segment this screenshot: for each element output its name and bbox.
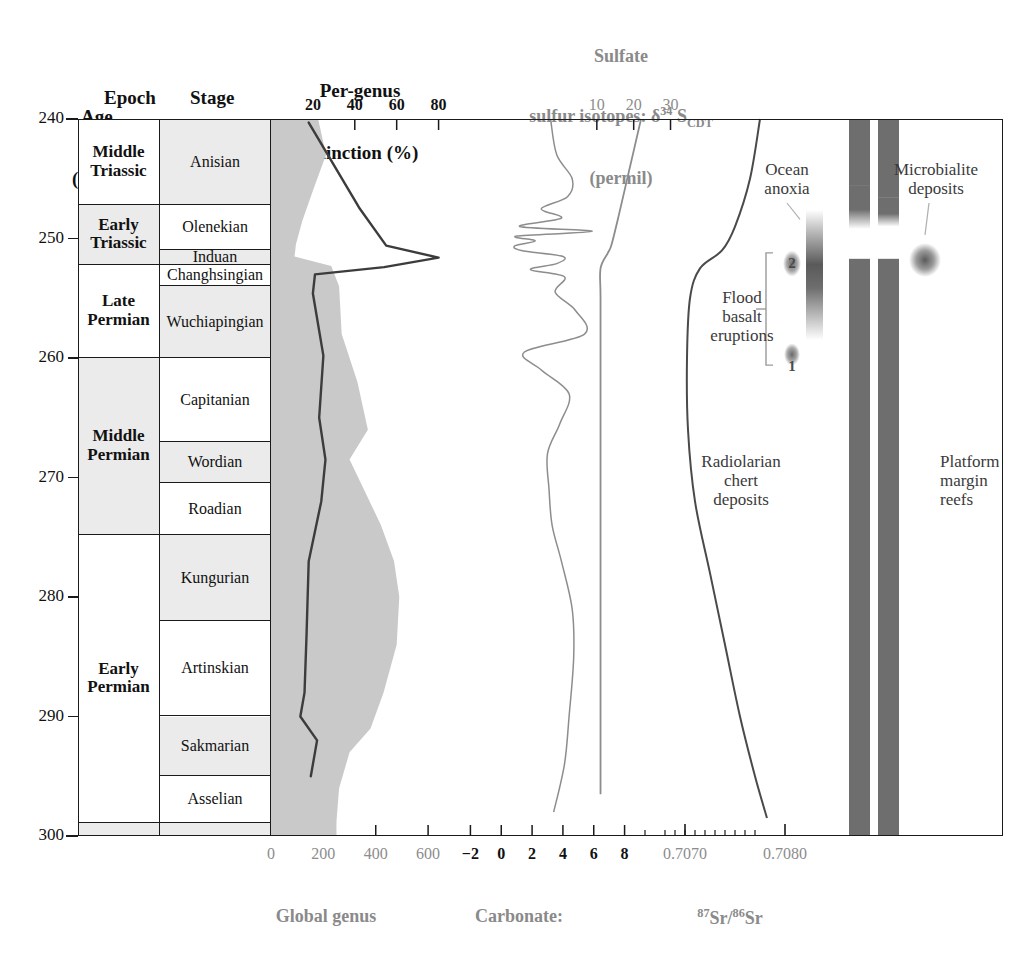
age-tick-label: 280: [20, 586, 64, 606]
age-tick: [68, 596, 78, 598]
age-tick-label: 240: [20, 108, 64, 128]
carbonate-tick-label: −2: [462, 845, 479, 863]
extinction-tick-label: 40: [347, 96, 363, 114]
carbonate-tick-label: 8: [621, 845, 629, 863]
extinction-tick-label: 60: [389, 96, 405, 114]
stage-column-title: Stage: [190, 88, 234, 109]
carbonate-tick-label: 6: [590, 845, 598, 863]
carbonate-panel-title: Carbonate: δ13 CVPDB (permil): [475, 868, 563, 965]
carbonate-tick-label: 4: [559, 845, 567, 863]
strontium-tick-label: 0.7070: [663, 845, 707, 863]
ocean-anoxia-label: Ocean anoxia: [764, 160, 809, 198]
flood-basalt-marker-2: 2: [783, 255, 801, 272]
diversity-tick-label: 200: [311, 845, 335, 863]
extinction-tick-label: 20: [305, 96, 321, 114]
carbonate-tick-label: 0: [497, 845, 505, 863]
age-tick-label: 250: [20, 228, 64, 248]
flood-basalt-label: Flood basalt eruptions: [710, 288, 773, 345]
extinction-tick-label: 80: [431, 96, 447, 114]
age-tick-label: 270: [20, 467, 64, 487]
age-tick: [66, 118, 78, 120]
diversity-tick-label: 400: [364, 845, 388, 863]
age-tick: [68, 357, 78, 359]
diversity-panel-title: Global genus diversity: [276, 868, 377, 965]
chart-canvas: Age (Mya) Epoch Stage Per-genus extincti…: [0, 0, 1031, 965]
chart-frame: [78, 119, 1003, 836]
epoch-column-title: Epoch: [104, 88, 156, 109]
age-tick-label: 260: [20, 347, 64, 367]
strontium-panel-title: 87Sr/86Sr: [697, 868, 762, 965]
diversity-tick-label: 0: [267, 845, 275, 863]
radiolarian-chert-label: Radiolarian chert deposits: [701, 452, 780, 509]
carbonate-tick-label: 2: [528, 845, 536, 863]
age-tick-label: 290: [20, 706, 64, 726]
age-tick: [68, 238, 78, 240]
platform-margin-reefs-label: Platform margin reefs: [940, 452, 1000, 509]
strontium-tick-label: 0.7080: [763, 845, 807, 863]
sulfate-tick-label: 30: [663, 96, 679, 114]
age-tick: [68, 716, 78, 718]
age-tick-label: 300: [20, 825, 64, 845]
age-tick: [66, 835, 78, 837]
flood-basalt-marker-1: 1: [783, 358, 801, 375]
sulfate-tick-label: 20: [626, 96, 642, 114]
microbialite-label: Microbialite deposits: [894, 160, 978, 198]
diversity-tick-label: 600: [416, 845, 440, 863]
sulfate-tick-label: 10: [589, 96, 605, 114]
age-tick: [68, 477, 78, 479]
